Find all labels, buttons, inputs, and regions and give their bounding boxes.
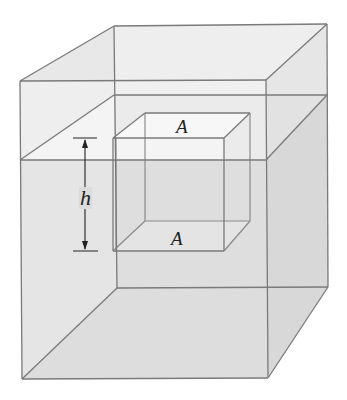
- cube-front-face-air: [113, 138, 224, 160]
- container-diagram: [0, 0, 347, 400]
- bottom-face-area-label: A: [171, 229, 183, 248]
- diagram-canvas: A A h: [0, 0, 347, 400]
- top-face-area-label: A: [176, 117, 188, 136]
- height-label: h: [79, 187, 92, 209]
